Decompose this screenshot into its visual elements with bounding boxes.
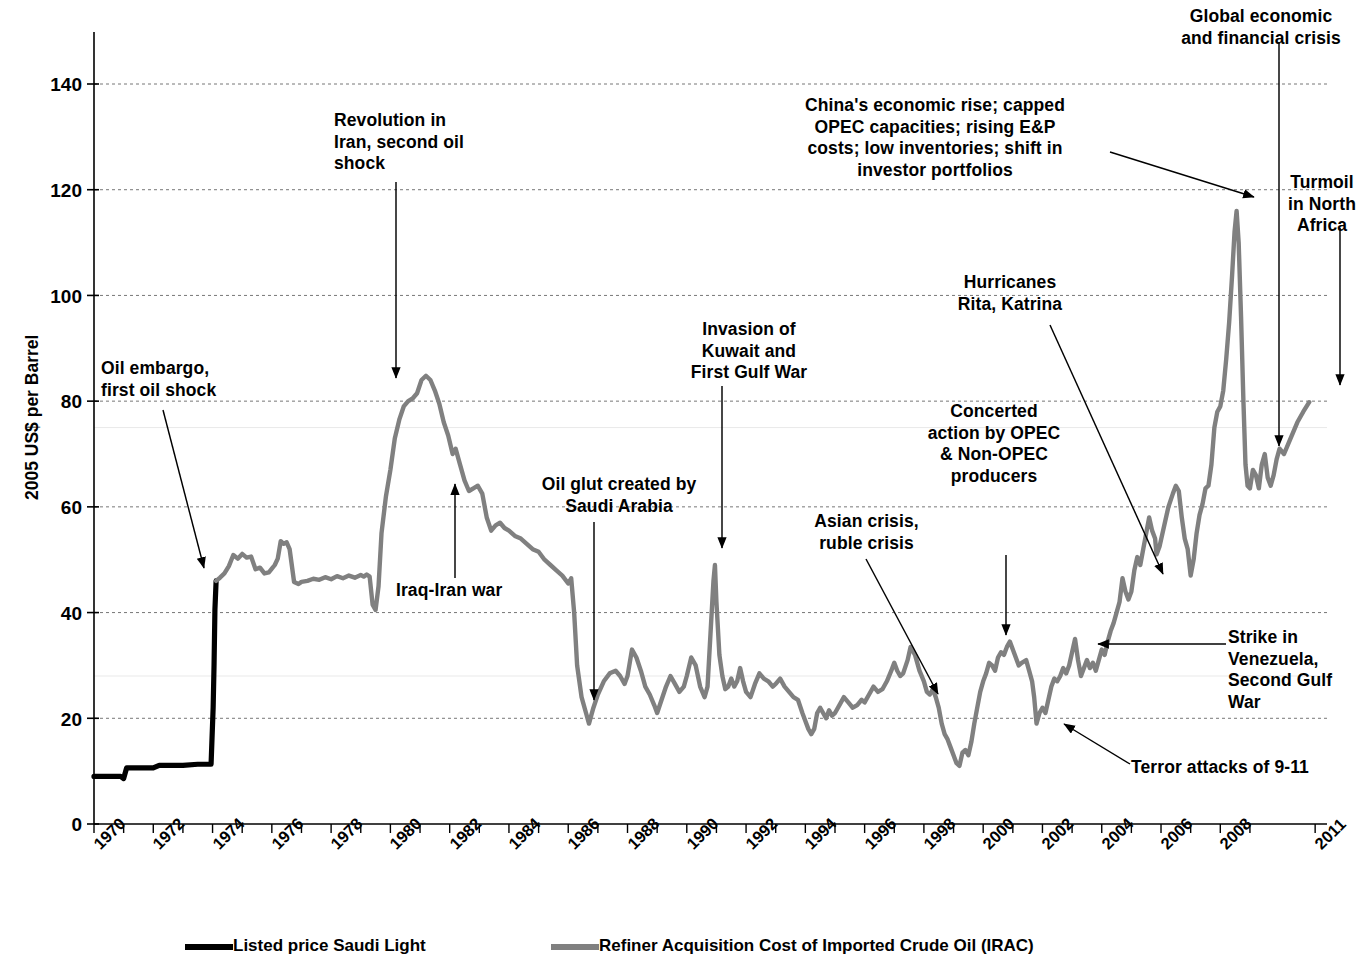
legend-swatch-irac — [551, 944, 599, 950]
leader-oil-embargo — [163, 410, 204, 568]
annotation-invasion-kuwait: Invasion of Kuwait and First Gulf War — [654, 319, 844, 384]
annotation-asian-crisis: Asian crisis, ruble crisis — [789, 511, 944, 554]
legend-swatch-saudi-light — [185, 944, 233, 950]
annotation-oil-embargo: Oil embargo, first oil shock — [101, 358, 301, 401]
annotation-oil-glut: Oil glut created by Saudi Arabia — [521, 474, 717, 517]
legend-label-saudi-light: Listed price Saudi Light — [233, 936, 426, 956]
chart-root: 2005 US$ per Barrel 140 120 100 80 60 40… — [0, 0, 1361, 959]
annotation-strike-venezuela: Strike in Venezuela, Second Gulf War — [1228, 627, 1361, 713]
annotation-global-crisis: Global economic and financial crisis — [1161, 6, 1361, 49]
annotation-iraq-iran-war: Iraq-Iran war — [396, 580, 576, 602]
annotation-hurricanes: Hurricanes Rita, Katrina — [925, 272, 1095, 315]
annotation-revolution-iran: Revolution in Iran, second oil shock — [334, 110, 514, 175]
annotation-terror-attacks: Terror attacks of 9-11 — [1131, 757, 1361, 779]
series-line-saudi-light — [94, 581, 216, 779]
series-line-irac — [216, 211, 1309, 766]
leader-terror-attacks — [1064, 724, 1130, 764]
annotation-china-rise: China's economic rise; capped OPEC capac… — [770, 95, 1100, 181]
annotation-concerted-action: Concerted action by OPEC & Non-OPEC prod… — [909, 401, 1079, 487]
annotation-turmoil-north-africa: Turmoil in North Africa — [1283, 172, 1361, 237]
leader-china-rise — [1110, 152, 1254, 197]
legend-label-irac: Refiner Acquisition Cost of Imported Cru… — [599, 936, 1034, 956]
